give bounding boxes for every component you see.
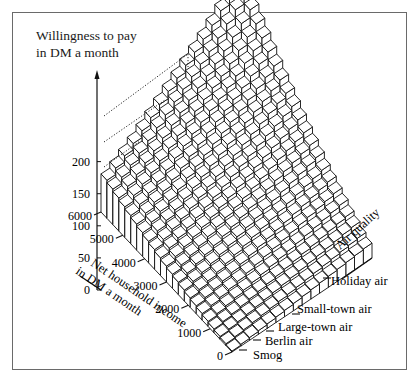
air-quality-category-label: Small-town air — [297, 302, 372, 316]
z-tick-label: 200 — [72, 155, 90, 169]
income-tick-label: 5000 — [90, 232, 114, 246]
surface-plot: 0501001502000100020003000400050006000Net… — [0, 0, 419, 383]
z-tick-label: 150 — [72, 187, 90, 201]
income-tick-label: 4000 — [112, 256, 136, 270]
z-tick-label: 50 — [78, 251, 90, 265]
air-quality-category-label: Berlin air — [265, 334, 313, 348]
income-tick-label: 0 — [217, 349, 223, 363]
air-quality-category-label: Holiday air — [331, 274, 388, 288]
air-quality-category-label: Large-town air — [278, 320, 353, 334]
air-quality-category-label: Smog — [253, 348, 283, 362]
income-tick-label: 6000 — [68, 209, 92, 223]
